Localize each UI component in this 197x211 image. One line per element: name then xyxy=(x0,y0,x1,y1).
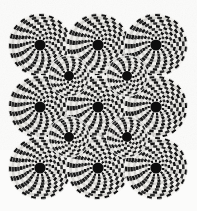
checker-cell xyxy=(110,44,113,47)
checker-cell xyxy=(109,136,112,140)
checker-cell xyxy=(137,135,139,139)
checker-cell xyxy=(109,74,111,78)
checker-cell xyxy=(118,168,121,172)
checker-cell xyxy=(104,44,107,46)
checker-cell xyxy=(69,106,72,111)
disc-hub xyxy=(150,39,161,50)
disc-hub xyxy=(92,39,103,50)
checker-cell xyxy=(69,40,72,45)
checker-cell xyxy=(39,34,42,37)
checker-cell xyxy=(156,148,160,151)
checker-cell xyxy=(23,42,26,46)
checker-cell xyxy=(125,63,129,65)
checker-cell xyxy=(39,154,42,157)
checker-cell xyxy=(155,34,158,37)
checker-cell xyxy=(81,44,84,48)
checker-cell xyxy=(94,78,99,81)
checker-cell xyxy=(39,51,41,54)
checker-cell xyxy=(155,54,158,57)
checker-cell xyxy=(127,102,130,107)
checker-cell xyxy=(39,194,44,197)
checker-cell xyxy=(151,78,156,81)
checker-cell xyxy=(54,167,57,171)
checker-cell xyxy=(156,62,160,65)
checker-cell xyxy=(72,168,75,173)
checker-cell xyxy=(154,180,157,183)
checker-cell xyxy=(156,185,160,188)
checker-cell xyxy=(130,44,133,49)
checker-cell xyxy=(67,124,71,126)
checker-cell xyxy=(139,165,142,169)
checker-cell xyxy=(156,127,160,130)
checker-cell xyxy=(69,45,72,50)
checker-cell xyxy=(145,44,148,47)
checker-cell xyxy=(97,93,100,96)
checker-cell xyxy=(136,106,139,110)
checker-cell xyxy=(49,167,52,170)
checker-cell xyxy=(135,74,137,77)
checker-cell xyxy=(72,45,75,50)
checker-cell xyxy=(98,16,103,19)
checker-cell xyxy=(137,76,140,80)
checker-cell xyxy=(112,106,115,110)
checker-cell xyxy=(152,148,156,151)
checker-cell xyxy=(38,81,43,84)
checker-cell xyxy=(155,142,160,145)
checker-cell xyxy=(173,104,176,108)
checker-cell xyxy=(167,42,170,45)
checker-cell xyxy=(154,90,158,93)
checker-cell xyxy=(140,136,143,140)
disc-hub xyxy=(122,71,132,81)
checker-cell xyxy=(176,107,179,111)
checker-cell xyxy=(142,168,145,171)
checker-cell xyxy=(40,84,44,87)
checker-cell xyxy=(51,135,53,139)
checker-cell xyxy=(153,22,157,25)
checker-cell xyxy=(98,145,102,148)
checker-cell xyxy=(40,133,45,136)
checker-cell xyxy=(37,93,40,96)
checker-cell xyxy=(170,167,173,171)
checker-cell xyxy=(29,167,32,170)
checker-cell xyxy=(78,105,81,109)
checker-cell xyxy=(97,182,101,185)
checker-cell xyxy=(36,84,40,87)
checker-cell xyxy=(39,31,42,34)
checker-cell xyxy=(29,44,32,47)
checker-cell xyxy=(69,163,72,168)
checker-cell xyxy=(121,163,124,168)
checker-cell xyxy=(142,105,145,108)
checker-cell xyxy=(39,71,44,74)
checker-cell xyxy=(97,179,100,182)
checker-cell xyxy=(11,107,14,112)
checker-cell xyxy=(104,167,107,169)
checker-cell xyxy=(17,107,20,111)
checker-cell xyxy=(130,102,133,107)
checker-cell xyxy=(96,142,101,145)
checker-cell xyxy=(20,166,23,170)
checker-cell xyxy=(93,71,98,74)
checker-cell xyxy=(156,84,160,87)
checker-cell xyxy=(133,102,136,106)
checker-cell xyxy=(63,41,66,46)
checker-cell xyxy=(60,165,63,169)
checker-cell xyxy=(167,165,170,168)
checker-cell xyxy=(90,44,93,46)
checker-cell xyxy=(37,124,41,127)
checker-cell xyxy=(136,166,139,170)
checker-cell xyxy=(153,145,157,148)
checker-cell xyxy=(36,139,41,142)
checker-cell xyxy=(74,75,76,78)
checker-cell xyxy=(75,40,78,44)
checker-cell xyxy=(133,44,136,48)
checker-cell xyxy=(110,167,113,170)
checker-cell xyxy=(97,25,101,28)
checker-cell xyxy=(126,89,130,92)
checker-cell xyxy=(87,106,90,109)
checker-cell xyxy=(155,174,157,177)
checker-cell xyxy=(78,44,81,48)
checker-cell xyxy=(95,185,99,188)
checker-cell xyxy=(68,61,72,64)
checker-cell xyxy=(112,75,115,79)
checker-cell xyxy=(39,151,43,154)
